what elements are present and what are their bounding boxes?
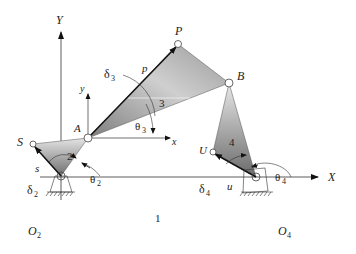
label-U: U <box>199 144 208 156</box>
svg-text:3: 3 <box>111 74 115 83</box>
svg-text:4: 4 <box>282 177 286 186</box>
label-u: u <box>227 180 233 192</box>
svg-text:2: 2 <box>97 179 101 188</box>
svg-text:θ: θ <box>135 120 140 132</box>
svg-text:2: 2 <box>37 231 41 240</box>
label-delta4: δ 4 <box>199 182 210 198</box>
joint-A <box>84 134 92 142</box>
svg-text:θ: θ <box>275 171 280 183</box>
svg-text:δ: δ <box>199 182 205 196</box>
link-2-crank <box>33 138 88 176</box>
ground-O4 <box>240 168 273 196</box>
label-O2: O 2 <box>28 224 41 240</box>
ground-O2 <box>46 176 75 196</box>
point-P <box>175 41 182 48</box>
joint-B <box>225 79 233 87</box>
point-S <box>30 141 36 147</box>
local-y-label: y <box>79 83 85 94</box>
svg-text:δ: δ <box>104 67 110 81</box>
svg-text:3: 3 <box>142 126 146 135</box>
Y-axis-label: Y <box>56 13 64 27</box>
X-axis-label: X <box>327 170 336 184</box>
label-B: B <box>237 69 245 83</box>
label-theta4: θ 4 <box>275 171 286 186</box>
svg-text:4: 4 <box>206 189 210 198</box>
link-4-number: 4 <box>229 136 235 148</box>
svg-text:O: O <box>28 224 37 238</box>
label-s: s <box>35 162 39 174</box>
label-delta2: δ 2 <box>27 183 38 199</box>
svg-text:O: O <box>278 224 287 238</box>
linkage-diagram: Y X x y P <box>0 0 356 254</box>
point-U <box>210 149 216 155</box>
svg-text:θ: θ <box>90 173 95 185</box>
label-delta3: δ 3 <box>104 67 115 83</box>
svg-text:δ: δ <box>27 183 33 197</box>
label-S: S <box>17 135 23 149</box>
local-x-label: x <box>171 136 177 147</box>
theta2-pointer <box>82 163 90 168</box>
label-A: A <box>73 122 81 134</box>
svg-text:2: 2 <box>34 190 38 199</box>
link-4-rocker <box>213 83 256 177</box>
link-2-number: 2 <box>67 150 73 162</box>
link-3-coupler <box>88 44 229 138</box>
label-P: P <box>174 24 183 38</box>
label-p: p <box>141 62 148 74</box>
link-1-ground-number: 1 <box>155 212 161 224</box>
label-theta3: θ 3 <box>135 120 146 135</box>
link-3-number: 3 <box>159 97 165 109</box>
label-O4: O 4 <box>278 224 291 240</box>
svg-text:4: 4 <box>287 231 291 240</box>
